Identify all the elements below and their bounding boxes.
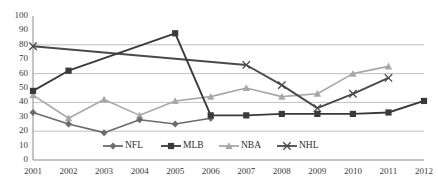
data-point-mlb [208, 112, 214, 118]
y-axis-tick-label: 0 [0, 154, 28, 164]
legend-marker-square-icon [168, 143, 174, 149]
data-point-mlb [172, 30, 178, 36]
legend-item-mlb[interactable] [161, 143, 181, 149]
x-axis-tick-label: 2006 [195, 166, 227, 176]
y-axis-tick-label: 30 [0, 111, 28, 121]
data-point-mlb [30, 88, 36, 94]
y-axis-tick-label: 70 [0, 53, 28, 63]
legend-item-nfl[interactable] [103, 143, 123, 150]
x-axis-tick-label: 2009 [301, 166, 333, 176]
x-axis-tick-label: 2010 [337, 166, 369, 176]
x-axis-tick-label: 2011 [372, 166, 404, 176]
data-point-nfl [30, 109, 37, 116]
data-point-mlb [243, 112, 249, 118]
y-axis-tick-label: 10 [0, 140, 28, 150]
data-point-nba [65, 115, 72, 122]
legend-item-nhl[interactable] [277, 142, 297, 149]
x-axis-tick-label: 2012 [408, 166, 438, 176]
legend-item-nba[interactable] [219, 142, 239, 149]
y-axis-tick-label: 100 [0, 10, 28, 20]
legend-label-nba[interactable]: NBA [241, 140, 261, 150]
series-nhl [29, 43, 392, 112]
data-point-nba [385, 63, 392, 70]
x-axis-tick-label: 2004 [124, 166, 156, 176]
y-axis-tick-label: 60 [0, 68, 28, 78]
x-axis-tick-label: 2005 [159, 166, 191, 176]
x-axis-tick-label: 2001 [17, 166, 49, 176]
data-point-mlb [421, 98, 427, 104]
data-point-mlb [385, 109, 391, 115]
data-point-nhl [314, 104, 321, 111]
series-mlb [30, 30, 427, 118]
data-point-mlb [314, 111, 320, 117]
data-point-mlb [279, 111, 285, 117]
data-point-nhl [349, 90, 356, 97]
data-point-nba [243, 84, 250, 91]
y-axis-tick-label: 40 [0, 96, 28, 106]
y-axis-tick-label: 50 [0, 82, 28, 92]
x-axis-tick-label: 2007 [230, 166, 262, 176]
data-point-mlb [65, 68, 71, 74]
data-point-nhl [278, 81, 285, 88]
y-axis-tick-label: 20 [0, 125, 28, 135]
y-axis-tick-label: 80 [0, 39, 28, 49]
data-point-mlb [350, 111, 356, 117]
legend-label-nfl[interactable]: NFL [125, 140, 143, 150]
data-point-nba [100, 96, 107, 103]
legend-label-nhl[interactable]: NHL [299, 140, 319, 150]
legend-marker-diamond-icon [110, 143, 117, 150]
x-axis-tick-label: 2003 [88, 166, 120, 176]
data-point-nfl [172, 121, 179, 128]
data-point-nfl [65, 121, 72, 128]
x-axis-tick-label: 2002 [53, 166, 85, 176]
data-point-nhl [385, 74, 392, 81]
series-nfl [30, 109, 215, 136]
x-axis-tick-label: 2008 [266, 166, 298, 176]
y-axis-tick-label: 90 [0, 24, 28, 34]
data-point-nfl [101, 129, 108, 136]
legend-label-mlb[interactable]: MLB [183, 140, 204, 150]
